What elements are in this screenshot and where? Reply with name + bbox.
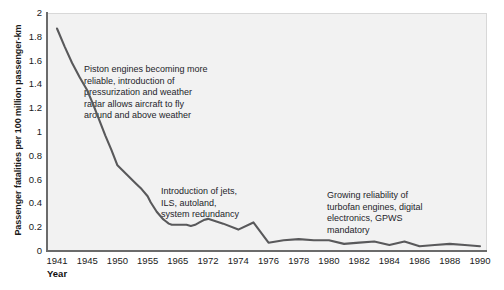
y-tick-label: 0.6 xyxy=(0,175,42,185)
y-axis-line xyxy=(46,12,48,252)
y-tick-label: 0.8 xyxy=(0,151,42,161)
x-tick-label: 1990 xyxy=(460,256,500,266)
annotation-introduction-of-jets: Introduction of jets, ILS, autoland, sys… xyxy=(161,186,276,221)
annotation-piston-engines: Piston engines becoming more reliable, i… xyxy=(84,64,254,122)
y-tick-label: 0 xyxy=(0,246,42,256)
y-tick-label: 0.2 xyxy=(0,222,42,232)
y-tick-label: 1.6 xyxy=(0,56,42,66)
annotation-turbofan-reliability: Growing reliability of turbofan engines,… xyxy=(327,190,452,236)
y-tick-label: 0.4 xyxy=(0,198,42,208)
y-tick-label: 2 xyxy=(0,8,42,18)
x-axis-title: Year xyxy=(47,268,67,279)
y-tick-label: 1.2 xyxy=(0,103,42,113)
y-tick-label: 1.4 xyxy=(0,79,42,89)
x-axis-line xyxy=(46,250,487,252)
y-tick-label: 1 xyxy=(0,127,42,137)
chart-screenshot: Passenger fatalities per 100 million pas… xyxy=(0,0,504,290)
y-tick-label: 1.8 xyxy=(0,32,42,42)
